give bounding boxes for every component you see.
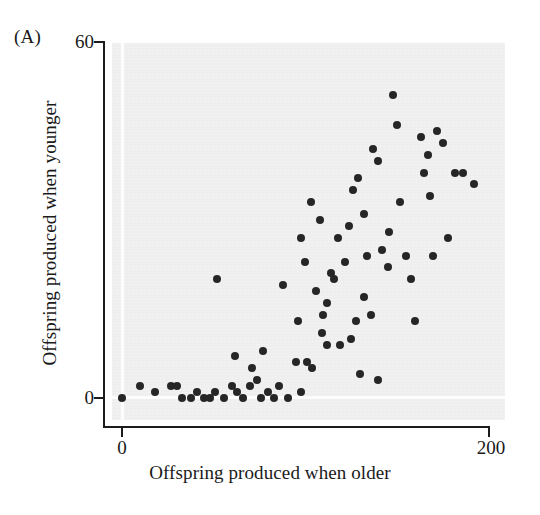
panel-label: (A) [14, 26, 41, 48]
y-axis-title: Offspring produced when younger [39, 101, 61, 366]
y-axis-tick-label-0: 0 [60, 387, 94, 409]
x-axis-line [103, 426, 490, 428]
y-axis-tick-60 [94, 41, 104, 43]
y-axis-tick-label-60: 60 [60, 31, 94, 53]
x-axis-tick-label-200: 200 [470, 437, 512, 459]
y-axis-tick-0 [94, 397, 104, 399]
y-axis-line [103, 41, 105, 428]
plot-register-line-vertical [121, 43, 124, 420]
plot-register-line-horizontal [112, 396, 505, 399]
plot-background [112, 43, 505, 420]
y-axis-title-wrapper: Offspring produced when younger [35, 63, 65, 403]
x-axis-title: Offspring produced when older [0, 462, 540, 484]
x-axis-tick-label-0: 0 [108, 437, 136, 459]
scatter-plot-figure: (A) 60 0 0 200 Offspring produced when y… [0, 0, 540, 515]
x-axis-tick-0 [121, 427, 123, 437]
x-axis-tick-200 [488, 427, 490, 437]
